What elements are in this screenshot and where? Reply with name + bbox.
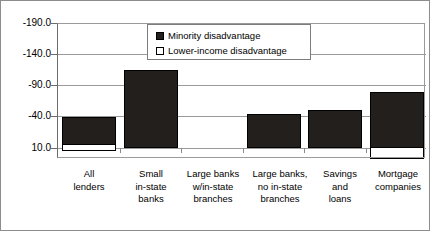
label-line: no in-state — [243, 181, 317, 194]
chart-container: -190.0 -140.0 -90.0 -40.0 10.0 — [0, 0, 432, 233]
x-axis-tick-mark — [243, 148, 244, 153]
bar-group — [308, 23, 362, 163]
x-axis-category-labels: All lenders Small in-state banks Large b… — [57, 168, 425, 226]
x-axis-label-savings-and-loans: Savings and loans — [312, 168, 368, 206]
label-line: Large banks, — [243, 168, 317, 181]
x-axis-label-large-banks-with-branches: Large banks w/in-state branches — [178, 168, 248, 206]
bar-minority-small-in-state-banks[interactable] — [124, 70, 178, 148]
legend-label: Lower-income disadvantage — [168, 45, 287, 56]
label-line: banks — [119, 193, 183, 206]
label-line: loans — [312, 193, 368, 206]
x-axis-tick-mark — [120, 148, 121, 153]
x-axis-label-large-banks-no-branches: Large banks, no in-state branches — [243, 168, 317, 206]
x-axis-label-mortgage-companies: Mortgage companies — [363, 168, 432, 193]
label-line: branches — [178, 193, 248, 206]
bar-minority-savings-and-loans[interactable] — [308, 110, 362, 148]
label-line: lenders — [57, 181, 121, 194]
y-axis-tick-label: -90.0 — [3, 80, 51, 90]
bar-group — [370, 23, 424, 163]
x-axis-tick-mark — [304, 148, 305, 153]
legend-label: Minority disadvantage — [168, 30, 260, 41]
x-axis-tick-mark — [181, 148, 182, 153]
y-axis-tick-label: -140.0 — [3, 49, 51, 59]
legend-item-minority[interactable]: Minority disadvantage — [156, 28, 310, 43]
label-line: in-state — [119, 181, 183, 194]
x-axis-tick-mark — [366, 148, 367, 153]
x-axis-label-all-lenders: All lenders — [57, 168, 121, 193]
bar-group — [62, 23, 116, 163]
x-axis — [57, 148, 425, 158]
label-line: branches — [243, 193, 317, 206]
label-line: w/in-state — [178, 181, 248, 194]
y-axis-tick-label: -40.0 — [3, 111, 51, 121]
chart-legend: Minority disadvantage Lower-income disad… — [147, 24, 311, 60]
y-axis-tick-label: -190.0 — [3, 18, 51, 28]
label-line: Large banks — [178, 168, 248, 181]
label-line: and — [312, 181, 368, 194]
open-square-icon — [156, 47, 164, 55]
label-line: Mortgage — [363, 168, 432, 181]
label-line: Small — [119, 168, 183, 181]
filled-square-icon — [156, 32, 164, 40]
y-axis-labels: -190.0 -140.0 -90.0 -40.0 10.0 — [0, 0, 51, 233]
bar-minority-mortgage-companies[interactable] — [370, 92, 424, 148]
label-line: Savings — [312, 168, 368, 181]
x-axis-label-small-in-state-banks: Small in-state banks — [119, 168, 183, 206]
label-line: companies — [363, 181, 432, 194]
bar-minority-large-banks-no-branches[interactable] — [247, 114, 301, 148]
label-line: All — [57, 168, 121, 181]
legend-item-lower-income[interactable]: Lower-income disadvantage — [156, 43, 310, 58]
y-axis-tick-label: 10.0 — [3, 143, 51, 153]
